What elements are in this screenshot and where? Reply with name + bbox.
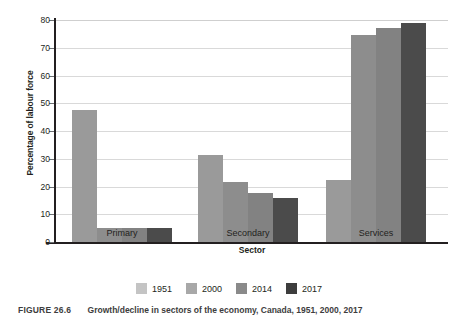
bar-group [326,20,426,242]
bar [401,23,426,242]
bar-slot [273,20,298,242]
bar-slot [248,20,273,242]
legend-label: 2017 [302,284,322,294]
bar [376,28,401,242]
bar-slot [147,20,172,242]
legend-swatch-icon [186,283,197,294]
x-axis-label: Primary [107,228,138,238]
legend-label: 2014 [252,284,272,294]
legend-label: 2000 [202,284,222,294]
y-tick-label: 0 [45,237,50,247]
y-axis-title: Percentage of labour force [25,23,35,223]
figure-container: Percentage of labour force 0102030405060… [0,0,458,317]
bar-slot [376,20,401,242]
bar-slot [72,20,97,242]
bar [72,110,97,242]
bar-slot [97,20,122,242]
chart-legend: 1951200020142017 [0,283,458,294]
y-tick-label: 30 [41,154,50,164]
legend-swatch-icon [286,283,297,294]
legend-item[interactable]: 2014 [236,283,272,294]
bar [351,35,376,242]
legend-swatch-icon [236,283,247,294]
caption-number: FIGURE 26.6 [18,305,71,315]
bar-slot [351,20,376,242]
legend-item[interactable]: 2017 [286,283,322,294]
plot-area: 01020304050607080 [56,20,448,242]
legend-label: 1951 [152,284,172,294]
y-tick-label: 70 [41,43,50,53]
bar-slot [122,20,147,242]
bar [326,180,351,242]
y-tick-label: 80 [41,15,50,25]
x-axis-title: Sector [56,245,448,255]
legend-item[interactable]: 1951 [136,283,172,294]
caption-text: Growth/decline in sectors of the economy… [88,305,363,315]
x-axis-label: Secondary [226,228,269,238]
bar-slot [401,20,426,242]
bar-slot [326,20,351,242]
legend-item[interactable]: 2000 [186,283,222,294]
bar-slot [223,20,248,242]
bar [273,198,298,242]
x-axis-line [46,242,448,244]
bar-group [198,20,298,242]
y-tick-label: 40 [41,126,50,136]
bar-slot [198,20,223,242]
y-tick-label: 50 [41,98,50,108]
y-tick-label: 20 [41,182,50,192]
bar [147,228,172,242]
x-axis-label: Services [359,228,394,238]
figure-caption: FIGURE 26.6 Growth/decline in sectors of… [18,305,458,317]
y-tick-label: 60 [41,71,50,81]
y-tick-label: 10 [41,209,50,219]
bar [198,155,223,242]
legend-swatch-icon [136,283,147,294]
bar-group [72,20,172,242]
